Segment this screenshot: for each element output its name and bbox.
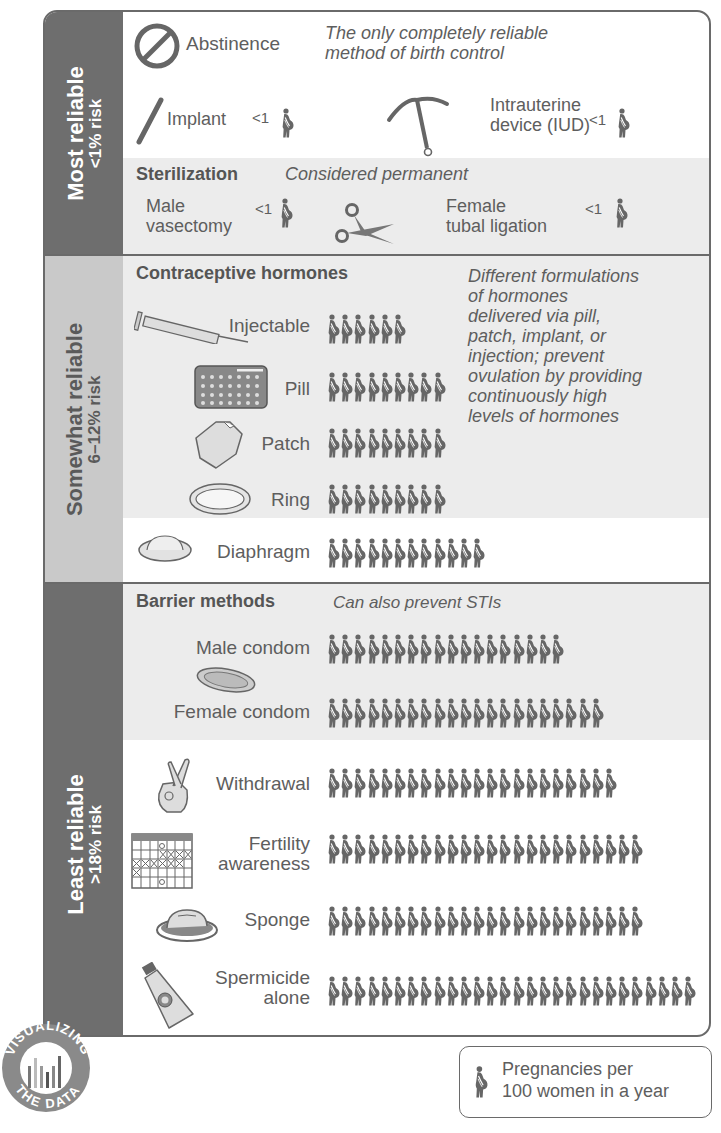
pregnant-woman-icon <box>281 108 294 138</box>
pregnant-woman-icon <box>367 834 380 864</box>
pregnant-woman-icon <box>564 698 577 728</box>
pregnant-woman-icon <box>367 976 380 1006</box>
pregnant-woman-icon <box>327 906 340 936</box>
pregnant-woman-icon <box>327 538 340 568</box>
pregnant-woman-icon <box>380 834 393 864</box>
pregnant-woman-icon <box>353 538 366 568</box>
pregnant-woman-icon <box>578 698 591 728</box>
pregnant-woman-icon <box>485 906 498 936</box>
pregnant-woman-icon <box>433 698 446 728</box>
pregnant-woman-icon <box>380 372 393 402</box>
pregnant-woman-icon <box>340 834 353 864</box>
pregnant-woman-icon <box>538 698 551 728</box>
pregnant-woman-icon <box>485 634 498 664</box>
pictograph-row-withdrawal <box>327 766 617 798</box>
pregnant-woman-icon <box>367 538 380 568</box>
scissors-icon <box>332 202 398 248</box>
band-risk: >18% risk <box>87 774 105 915</box>
pregnant-woman-icon <box>433 976 446 1006</box>
implant-label: Implant <box>167 110 226 130</box>
pregnant-woman-icon <box>512 768 525 798</box>
pregnant-woman-icon <box>459 634 472 664</box>
pregnant-woman-icon <box>406 538 419 568</box>
pregnant-woman-icon <box>459 698 472 728</box>
pregnant-woman-icon <box>393 768 406 798</box>
pregnant-woman-icon <box>498 906 511 936</box>
pregnant-woman-icon <box>380 768 393 798</box>
vasectomy-line1: Male <box>146 197 185 217</box>
pregnant-woman-icon <box>393 834 406 864</box>
pictograph-row-fertility <box>327 832 644 864</box>
pregnant-woman-icon <box>551 906 564 936</box>
injectable-label: Injectable <box>185 316 310 337</box>
pregnant-woman-icon <box>340 538 353 568</box>
iud-value: <1 <box>589 112 606 129</box>
section-divider <box>45 582 709 584</box>
pregnant-woman-icon <box>327 976 340 1006</box>
fertility-line2: awareness <box>185 854 310 875</box>
pregnant-woman-icon <box>380 976 393 1006</box>
sterilization-heading: Sterilization <box>136 165 238 185</box>
note-line: Different formulations <box>468 266 642 286</box>
pregnant-woman-icon <box>538 834 551 864</box>
note-line: of hormones <box>468 286 642 306</box>
pregnant-woman-icon <box>564 834 577 864</box>
vasectomy-line2: vasectomy <box>146 217 232 237</box>
legend-line1: Pregnancies per <box>502 1060 633 1080</box>
barrier-heading: Barrier methods <box>136 592 275 612</box>
pregnant-woman-icon <box>380 698 393 728</box>
pregnant-woman-icon <box>578 768 591 798</box>
pregnant-woman-icon <box>512 976 525 1006</box>
pregnant-woman-icon <box>564 768 577 798</box>
pregnant-woman-icon <box>353 698 366 728</box>
spermicide-line2: alone <box>185 988 310 1009</box>
pregnant-woman-icon <box>591 768 604 798</box>
pregnant-woman-icon <box>419 834 432 864</box>
pregnant-woman-icon <box>683 976 696 1006</box>
pregnant-woman-icon <box>617 834 630 864</box>
pregnant-woman-icon <box>433 634 446 664</box>
band-risk: 6–12% risk <box>87 322 105 515</box>
pregnant-woman-icon <box>393 428 406 458</box>
legend-line2: 100 women in a year <box>502 1082 669 1102</box>
chart-frame: Most reliable <1% risk Somewhat reliable… <box>43 10 711 1037</box>
pregnant-woman-icon <box>406 372 419 402</box>
female-condom-label: Female condom <box>125 702 310 723</box>
note-line: levels of hormones <box>468 406 642 426</box>
pregnant-woman-icon <box>604 906 617 936</box>
pregnant-woman-icon <box>670 976 683 1006</box>
pill-label: Pill <box>225 379 310 400</box>
pregnant-woman-icon <box>459 768 472 798</box>
diaphragm-label: Diaphragm <box>185 542 310 563</box>
pregnant-woman-icon <box>617 108 630 138</box>
pregnant-woman-icon <box>657 976 670 1006</box>
pregnant-woman-icon <box>538 768 551 798</box>
legend: Pregnancies per 100 women in a year <box>459 1046 712 1118</box>
pregnant-woman-icon <box>353 976 366 1006</box>
pregnant-woman-icon <box>498 976 511 1006</box>
note-line: continuously high <box>468 386 642 406</box>
note-line: patch, implant, or <box>468 326 642 346</box>
pregnant-woman-icon <box>525 768 538 798</box>
pregnant-woman-icon <box>327 428 340 458</box>
pregnant-woman-icon <box>380 314 393 344</box>
pregnant-woman-icon <box>380 906 393 936</box>
pregnant-woman-icon <box>551 634 564 664</box>
pregnant-woman-icon <box>498 834 511 864</box>
pregnant-woman-icon <box>604 976 617 1006</box>
pregnant-woman-icon <box>512 834 525 864</box>
withdrawal-label: Withdrawal <box>185 774 310 795</box>
pregnant-woman-icon <box>353 834 366 864</box>
pregnant-woman-icon <box>367 906 380 936</box>
pregnant-woman-icon <box>340 906 353 936</box>
pregnant-woman-icon <box>419 372 432 402</box>
pregnant-woman-icon <box>367 428 380 458</box>
pregnant-woman-icon <box>340 768 353 798</box>
pregnant-woman-icon <box>353 634 366 664</box>
pregnant-woman-icon <box>551 768 564 798</box>
pregnant-woman-icon <box>498 698 511 728</box>
pregnant-woman-icon <box>512 634 525 664</box>
pregnant-woman-icon <box>406 428 419 458</box>
pregnant-woman-icon <box>485 976 498 1006</box>
pregnant-woman-icon <box>485 768 498 798</box>
